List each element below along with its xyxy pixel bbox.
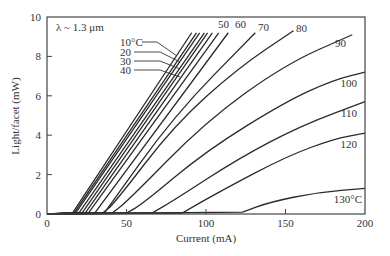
curve-label: 90 <box>335 37 347 49</box>
y-tick-label: 2 <box>36 169 42 181</box>
x-tick-label: 200 <box>357 217 374 229</box>
curve-120c <box>47 133 365 214</box>
curve-label: 110 <box>341 107 358 119</box>
x-tick-label: 100 <box>198 217 215 229</box>
curves <box>47 31 365 214</box>
curve-label: 40 <box>120 64 132 76</box>
y-tick-label: 8 <box>36 50 42 62</box>
curve-label: 50 <box>218 18 230 30</box>
curve-label: 80 <box>296 22 308 34</box>
curve-label: 120 <box>341 138 358 150</box>
curve-80c <box>47 31 293 214</box>
curve-label: 60 <box>235 18 247 30</box>
x-tick-label: 0 <box>44 217 50 229</box>
curve-70c <box>47 33 255 214</box>
y-axis-label: Light/facet (mW) <box>9 77 22 155</box>
y-tick-label: 10 <box>30 11 42 23</box>
light-current-chart: 0501001502000246810 λ ~ 1.3 μm Current (… <box>0 0 390 256</box>
axis-ticks: 0501001502000246810 <box>30 11 374 229</box>
y-tick-label: 0 <box>36 208 42 220</box>
y-tick-label: 4 <box>36 129 42 141</box>
y-tick-label: 6 <box>36 90 42 102</box>
x-axis-label: Current (mA) <box>176 232 237 245</box>
annotation-wavelength: λ ~ 1.3 μm <box>56 21 104 33</box>
curve-label: 70 <box>258 21 270 33</box>
x-tick-label: 150 <box>277 217 294 229</box>
curve-label: 130°C <box>334 193 362 205</box>
curve-label: 100 <box>341 77 358 89</box>
curve-110c <box>47 102 365 214</box>
x-tick-label: 50 <box>121 217 133 229</box>
